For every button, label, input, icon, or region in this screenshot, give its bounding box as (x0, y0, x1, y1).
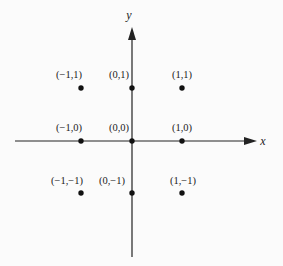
point-0-neg1: (0,−1) (99, 175, 135, 196)
point-label: (−1,1) (56, 69, 83, 81)
point-dot (129, 190, 134, 195)
point-neg1-neg1: (−1,−1) (51, 175, 84, 196)
point-dot (78, 138, 83, 143)
x-axis-arrowhead-icon (244, 137, 257, 145)
point-dot (78, 85, 83, 90)
point-dot (129, 138, 134, 143)
point-label: (1,1) (172, 69, 193, 81)
point-neg1-1: (−1,1) (56, 69, 84, 91)
point-dot (129, 85, 134, 90)
point-1-1: (1,1) (172, 69, 193, 91)
point-label: (−1,0) (56, 122, 83, 134)
point-dot (179, 85, 184, 90)
point-label: (1,−1) (170, 175, 197, 187)
point-label: (0,−1) (99, 175, 126, 187)
point-label: (0,0) (109, 122, 130, 134)
x-axis-label: x (259, 134, 266, 148)
point-dot (179, 190, 184, 195)
point-label: (1,0) (172, 122, 193, 134)
y-axis-arrowhead-icon (128, 27, 136, 40)
point-1-neg1: (1,−1) (170, 175, 197, 196)
point-dot (78, 190, 83, 195)
point-dot (179, 138, 184, 143)
coordinate-diagram: y x (−1,1) (0,1) (1,1) (−1,0) (0,0) (1,0… (0, 0, 283, 266)
point-0-1: (0,1) (109, 69, 135, 91)
y-axis-label: y (125, 8, 132, 22)
point-label: (0,1) (109, 69, 130, 81)
point-label: (−1,−1) (51, 175, 83, 187)
